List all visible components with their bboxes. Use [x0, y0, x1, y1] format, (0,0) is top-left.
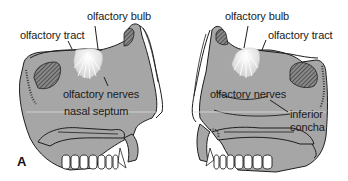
- left-label-olfactory-nerves: olfactory nerves: [63, 88, 139, 100]
- left-label-nasal-septum: nasal septum: [64, 105, 128, 117]
- right-teeth: [214, 155, 272, 169]
- panel-label: A: [17, 154, 26, 169]
- right-label-olfactory-bulb: olfactory bulb: [225, 10, 289, 22]
- right-label-olfactory-nerves: olfactory nerves: [210, 88, 286, 100]
- right-label-inferior-concha-line2: concha: [290, 121, 325, 133]
- right-label-olfactory-tract: olfactory tract: [268, 29, 333, 41]
- olfactory-anatomy-figure: olfactory tract olfactory bulb olfactory…: [0, 0, 348, 181]
- left-label-olfactory-tract: olfactory tract: [20, 29, 85, 41]
- right-label-inferior-concha-line1: inferior: [290, 108, 323, 120]
- left-label-olfactory-bulb: olfactory bulb: [87, 10, 151, 22]
- anatomy-illustration: [0, 0, 348, 181]
